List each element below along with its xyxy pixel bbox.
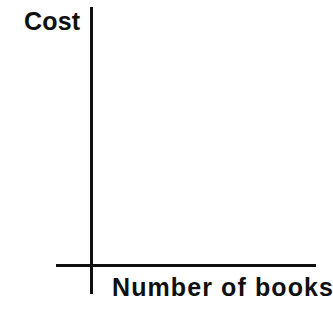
x-axis-title: Number of books bbox=[112, 273, 333, 302]
plot-area bbox=[93, 7, 316, 265]
chart-figure: Cost Number of books bbox=[0, 0, 333, 334]
y-axis-title: Cost bbox=[24, 7, 80, 35]
